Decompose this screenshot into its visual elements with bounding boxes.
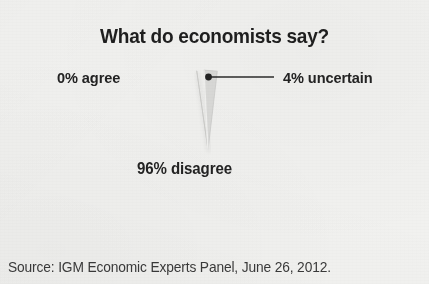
- source-caption: Source: IGM Economic Experts Panel, June…: [8, 259, 331, 275]
- pie-chart-figure: What do economists say?: [0, 0, 429, 284]
- data-label-disagree: 96% disagree: [137, 160, 232, 178]
- chart-plot-area: 0% agree 4% uncertain 96% disagree: [0, 0, 429, 250]
- data-label-agree: 0% agree: [57, 69, 120, 87]
- pie-chart-svg: [0, 0, 429, 250]
- data-label-uncertain: 4% uncertain: [283, 69, 373, 87]
